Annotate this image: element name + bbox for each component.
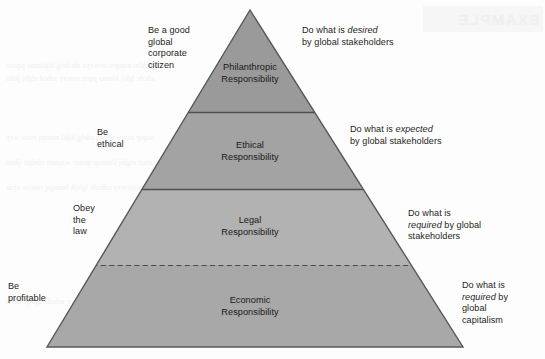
band-label-economic: Economic Responsibility <box>200 295 300 319</box>
callout-desired-post: by global stakeholders <box>302 37 394 47</box>
crsp-pyramid-figure: EXAMPLE ghjklm nopqrst uvwxyz abcdefg hi… <box>0 0 545 359</box>
band-label-legal: Legal Responsibility <box>200 215 300 239</box>
callout-left-be-profitable: Be profitable <box>8 281 86 304</box>
callout-desired-pre: Do what is <box>302 25 348 35</box>
callout-desired-emphasis: desired <box>348 25 378 35</box>
callout-left-good-citizen: Be a good global corporate citizen <box>148 25 244 71</box>
callout-expected-emphasis: expected <box>396 124 433 134</box>
callout-right-required-capitalism: Do what is required by global capitalism <box>462 280 542 326</box>
band-philanthropic-fill <box>0 0 545 113</box>
callout-required-cap-emphasis: required <box>462 292 496 302</box>
callout-required-stake-emphasis: required <box>408 220 442 230</box>
callout-left-obey-the-law: Obey the law <box>73 203 133 238</box>
callout-expected-pre: Do what is <box>350 124 396 134</box>
band-label-ethical: Ethical Responsibility <box>200 140 300 164</box>
callout-expected-post: by global stakeholders <box>350 136 442 146</box>
callout-right-required-stakeholders: Do what is required by global stakeholde… <box>408 208 530 243</box>
callout-left-be-ethical: Be ethical <box>97 127 167 150</box>
callout-right-expected: Do what is expected by global stakeholde… <box>350 124 520 147</box>
callout-required-cap-pre: Do what is <box>462 280 505 290</box>
callout-right-desired: Do what is desired by global stakeholder… <box>302 25 462 48</box>
callout-required-stake-pre: Do what is <box>408 208 451 218</box>
